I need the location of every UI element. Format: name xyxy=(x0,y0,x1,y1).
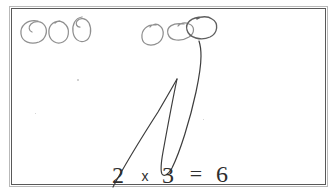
ink-drawing-layer: 2 x 3 = 6 xyxy=(0,0,336,193)
scanned-page: 2 x 3 = 6 xyxy=(0,0,336,193)
equation-operand-left: 2 xyxy=(112,162,124,188)
equation-result: 6 xyxy=(216,161,228,187)
circle-icon-right-1 xyxy=(142,24,163,45)
equation-operand-right: 3 xyxy=(162,162,174,188)
equation-row: 2 x 3 = 6 xyxy=(112,161,228,188)
circle-group-left xyxy=(21,17,91,43)
connector-loop-from-3 xyxy=(161,41,201,175)
circle-icon-right-3 xyxy=(187,17,217,39)
scan-speck xyxy=(77,79,79,81)
circle-icon-left-3 xyxy=(73,17,91,42)
circle-group-right xyxy=(142,17,217,45)
equation-equals-sign: = xyxy=(190,161,202,186)
equation-operator: x xyxy=(142,168,149,184)
circle-icon-left-1 xyxy=(21,21,46,43)
circle-icon-right-2 xyxy=(168,23,194,40)
circle-icon-left-2 xyxy=(49,21,69,43)
